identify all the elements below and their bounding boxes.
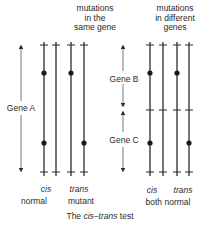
right-trans-label: trans [168, 186, 198, 195]
gene-b-label: Gene B [104, 75, 144, 84]
left-chromosomes [40, 42, 88, 176]
trans-result-label: mutant [64, 197, 98, 206]
gene-c-label: Gene C [104, 136, 144, 145]
both-result-label: both normal [140, 198, 196, 207]
caption-italic: cis–trans [83, 211, 117, 221]
gene-a-label: Gene A [1, 104, 41, 113]
caption-prefix: The [66, 211, 83, 221]
caption-suffix: test [117, 211, 133, 221]
left-cis-label: cis [36, 185, 56, 194]
left-trans-label: trans [64, 185, 94, 194]
right-mutation-dots [147, 70, 191, 145]
cis-result-label: normal [18, 197, 50, 206]
left-mutation-dots [41, 70, 86, 145]
right-cis-label: cis [142, 186, 162, 195]
figure-caption: The cis–trans test [50, 212, 150, 221]
right-chromosomes [146, 42, 193, 176]
